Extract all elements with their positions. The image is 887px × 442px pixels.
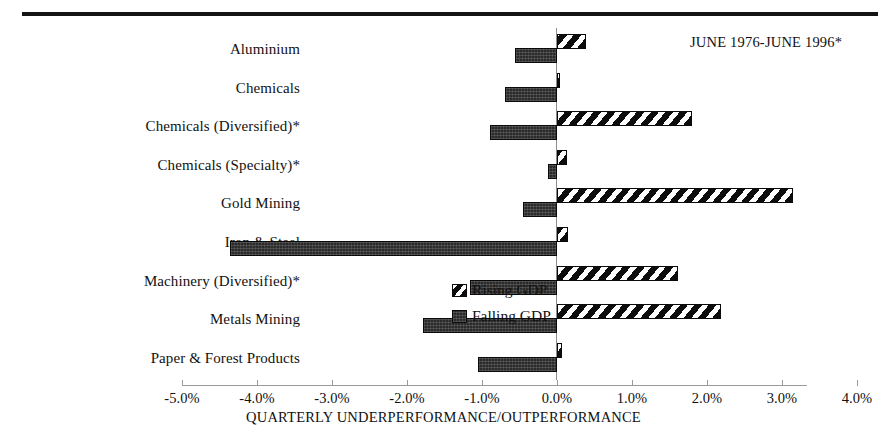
category-label: Chemicals <box>0 79 300 96</box>
chart-row: Chemicals (Diversified)* <box>0 107 887 145</box>
bar-falling-gdp <box>490 125 557 140</box>
chart-row: Aluminium <box>0 30 887 68</box>
bar-rising-gdp <box>557 34 586 49</box>
x-axis-tick-label: 3.0% <box>742 390 822 407</box>
legend-swatch-rising-icon <box>452 284 467 297</box>
x-axis-line <box>182 385 807 386</box>
category-label: Chemicals (Diversified)* <box>0 118 300 135</box>
x-axis-tick <box>407 380 408 386</box>
legend-label-falling: Falling GDP <box>472 307 551 325</box>
bar-falling-gdp <box>523 202 558 217</box>
x-axis-tick-label: 1.0% <box>592 390 672 407</box>
bar-rising-gdp <box>557 111 692 126</box>
legend-item-rising-gdp: Rising GDP <box>452 277 551 303</box>
chart-container: JUNE 1976-JUNE 1996* -5.0%-4.0%-3.0%-2.0… <box>0 0 887 442</box>
chart-row: Metals Mining <box>0 300 887 338</box>
legend-item-falling-gdp: Falling GDP <box>452 303 551 329</box>
x-axis-tick <box>482 380 483 386</box>
bar-falling-gdp <box>230 241 557 256</box>
x-axis-tick <box>557 380 558 386</box>
x-axis-tick-label: -4.0% <box>217 390 297 407</box>
chart-row: Iron & Steel <box>0 223 887 261</box>
bar-falling-gdp <box>548 164 557 179</box>
bar-falling-gdp <box>478 357 557 372</box>
legend-swatch-falling-icon <box>452 310 467 323</box>
x-axis-tick <box>332 380 333 386</box>
category-label: Gold Mining <box>0 195 300 212</box>
x-axis-tick <box>632 380 633 386</box>
bar-rising-gdp <box>557 150 567 165</box>
x-axis-title: QUARTERLY UNDERPERFORMANCE/OUTPERFORMANC… <box>0 409 887 426</box>
chart-row: Chemicals (Specialty)* <box>0 146 887 184</box>
chart-legend: Rising GDP Falling GDP <box>452 277 551 329</box>
bar-falling-gdp <box>505 87 557 102</box>
legend-label-rising: Rising GDP <box>472 281 547 299</box>
x-axis-tick-label: -5.0% <box>142 390 222 407</box>
plot-area: -5.0%-4.0%-3.0%-2.0%-1.0%0.0%1.0%2.0%3.0… <box>0 0 887 442</box>
category-label: Machinery (Diversified)* <box>0 272 300 289</box>
chart-row: Paper & Forest Products <box>0 339 887 377</box>
category-label: Metals Mining <box>0 311 300 328</box>
x-axis-tick-label: 2.0% <box>667 390 747 407</box>
x-axis-tick <box>857 380 858 386</box>
category-label: Aluminium <box>0 41 300 58</box>
bar-rising-gdp <box>557 227 568 242</box>
x-axis-tick-label: 4.0% <box>817 390 887 407</box>
category-label: Paper & Forest Products <box>0 349 300 366</box>
x-axis-tick-label: -3.0% <box>292 390 372 407</box>
x-axis-tick <box>257 380 258 386</box>
x-axis-tick <box>182 380 183 386</box>
x-axis-tick <box>782 380 783 386</box>
bar-rising-gdp <box>557 266 678 281</box>
x-axis-tick-label: -1.0% <box>442 390 522 407</box>
x-axis-tick-label: 0.0% <box>517 390 597 407</box>
chart-row: Chemicals <box>0 69 887 107</box>
chart-row: Machinery (Diversified)* <box>0 262 887 300</box>
bar-rising-gdp <box>557 343 562 358</box>
category-label: Chemicals (Specialty)* <box>0 156 300 173</box>
x-axis-tick <box>707 380 708 386</box>
bar-falling-gdp <box>515 48 557 63</box>
bar-rising-gdp <box>557 188 793 203</box>
chart-row: Gold Mining <box>0 184 887 222</box>
bar-rising-gdp <box>557 304 721 319</box>
bar-rising-gdp <box>557 73 560 88</box>
x-axis-tick-label: -2.0% <box>367 390 447 407</box>
